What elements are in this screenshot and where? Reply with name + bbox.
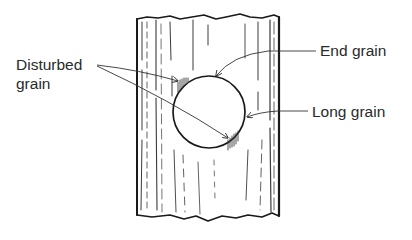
label-disturbed-line2: grain bbox=[16, 75, 50, 92]
board bbox=[137, 14, 279, 221]
long-grain-leader bbox=[247, 111, 308, 117]
disturbed-grain-hatching-bottom bbox=[228, 131, 238, 150]
disturbed-grain-hatching-top bbox=[178, 78, 188, 92]
end-grain-leader bbox=[216, 51, 316, 76]
labels: Disturbed grain End grain Long grain bbox=[16, 42, 386, 120]
board-top-edge bbox=[137, 14, 279, 19]
leaders bbox=[97, 51, 316, 138]
board-bottom-edge bbox=[137, 213, 279, 221]
label-disturbed-line1: Disturbed bbox=[16, 56, 82, 73]
grain-diagram: Disturbed grain End grain Long grain bbox=[0, 0, 412, 240]
label-end-grain: End grain bbox=[320, 42, 386, 59]
label-long-grain: Long grain bbox=[312, 103, 385, 120]
knot bbox=[173, 76, 245, 150]
grain-lines bbox=[141, 20, 274, 214]
